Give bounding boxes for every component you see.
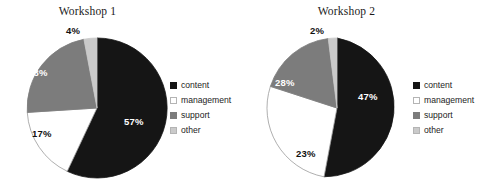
page-title-2: Workshop 2 xyxy=(259,5,434,17)
slice-label-management: 17% xyxy=(32,128,52,139)
slice-label-other: 4% xyxy=(66,25,80,36)
legend-label-support: support xyxy=(424,110,453,120)
legend-swatch-other-icon xyxy=(413,127,420,134)
legend-item-support[interactable]: support xyxy=(170,109,231,121)
page-title: Workshop 1 xyxy=(0,5,175,17)
pie-chart-workshop-1: 57% 17% 23% 4% xyxy=(22,33,172,183)
legend-swatch-content-icon xyxy=(413,82,420,89)
legend-item-support[interactable]: support xyxy=(413,109,474,121)
legend-label-other: other xyxy=(181,125,201,135)
legend-label-management: management xyxy=(181,95,231,105)
legend-label-content: content xyxy=(424,80,452,90)
legend-swatch-other-icon xyxy=(170,127,177,134)
legend-swatch-support-icon xyxy=(170,112,177,119)
slice-label-support: 23% xyxy=(28,67,48,78)
legend-label-support: support xyxy=(181,110,210,120)
legend-label-content: content xyxy=(181,80,209,90)
slice-label-content: 47% xyxy=(358,91,378,102)
legend-swatch-content-icon xyxy=(170,82,177,89)
legend-item-other[interactable]: other xyxy=(170,124,231,136)
slice-label-support: 28% xyxy=(275,77,295,88)
legend-swatch-management-icon xyxy=(170,97,177,104)
chart-panel-workshop-2: Workshop 2 47% 23% 28% 2% content xyxy=(245,0,490,193)
legend-item-management[interactable]: management xyxy=(170,94,231,106)
legend-workshop-1: content management support other xyxy=(170,79,231,136)
pie-svg-2 xyxy=(262,33,412,183)
legend-swatch-management-icon xyxy=(413,97,420,104)
chart-panel-workshop-1: Workshop 1 57% 17% 23% 4% content xyxy=(0,0,245,193)
legend-item-content[interactable]: content xyxy=(170,79,231,91)
legend-item-other[interactable]: other xyxy=(413,124,474,136)
legend-swatch-support-icon xyxy=(413,112,420,119)
legend-label-management: management xyxy=(424,95,474,105)
slice-label-management: 23% xyxy=(296,148,316,159)
pie-chart-workshop-2: 47% 23% 28% 2% xyxy=(262,33,412,183)
slice-label-other: 2% xyxy=(310,25,324,36)
pie-svg xyxy=(22,33,172,183)
legend-label-other: other xyxy=(424,125,444,135)
legend-workshop-2: content management support other xyxy=(413,79,474,136)
slice-label-content: 57% xyxy=(124,116,144,127)
pie-chart-figure: Workshop 1 57% 17% 23% 4% content xyxy=(0,0,490,193)
legend-item-management[interactable]: management xyxy=(413,94,474,106)
legend-item-content[interactable]: content xyxy=(413,79,474,91)
